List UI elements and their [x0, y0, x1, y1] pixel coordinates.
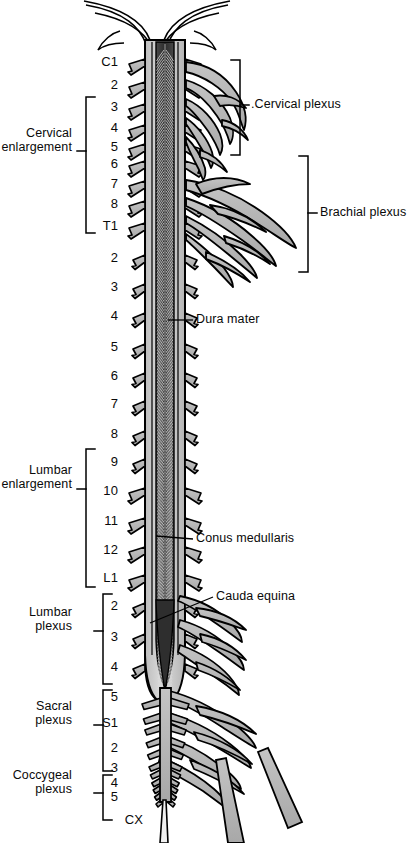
segment-label-11: 11	[78, 514, 118, 528]
bracket-label-coccygeal-plexus: Coccygealplexus	[0, 769, 72, 796]
bracket-label-line2: plexus	[0, 714, 72, 728]
filum-terminale	[160, 800, 168, 843]
segment-label-s1: S1	[78, 716, 118, 730]
segment-label-4: 4	[78, 309, 118, 323]
segment-label-8: 8	[78, 197, 118, 211]
bracket-label-line2: plexus	[0, 620, 72, 634]
segment-label-l1: L1	[78, 571, 118, 585]
segment-label-2: 2	[78, 741, 118, 755]
segment-label-2: 2	[78, 251, 118, 265]
segment-label-4: 4	[78, 776, 118, 790]
bracket-label-line1: Lumbar	[0, 464, 72, 478]
figure-canvas: C12345678T123456789101112L12345S12345CX …	[0, 0, 414, 843]
segment-label-3: 3	[78, 280, 118, 294]
bracket-label-line2: enlargement	[0, 478, 72, 492]
segment-label-3: 3	[78, 761, 118, 775]
segment-label-8: 8	[78, 427, 118, 441]
segment-label-5: 5	[78, 790, 118, 804]
bracket-label-lumbar-enlargement: Lumbarenlargement	[0, 464, 72, 491]
bracket-label-lumbar-plexus: Lumbarplexus	[0, 606, 72, 633]
bracket-label-line1: Cervical	[0, 127, 72, 141]
bracket-label-cervical-enlargement: Cervicalenlargement	[0, 127, 72, 154]
leader-label-cauda-equina: Cauda equina	[216, 590, 295, 604]
segment-label-3: 3	[78, 100, 118, 114]
segment-label-7: 7	[78, 177, 118, 191]
segment-label-t1: T1	[78, 219, 118, 233]
segment-label-6: 6	[78, 369, 118, 383]
cervical-plexus-nerves	[186, 62, 248, 180]
leader-label-dura-mater: Dura mater	[196, 313, 260, 327]
segment-label-5: 5	[78, 340, 118, 354]
segment-label-12: 12	[78, 543, 118, 557]
leader-label-conus-medullaris: Conus medullaris	[196, 532, 294, 546]
bracket-label-line1: Lumbar	[0, 606, 72, 620]
bracket-label-line2: enlargement	[0, 141, 72, 155]
segment-label-5: 5	[78, 690, 118, 704]
bracket-label-line1: Coccygeal	[0, 769, 72, 783]
segment-label-5: 5	[78, 140, 118, 154]
segment-label-9: 9	[78, 455, 118, 469]
left-spinal-roots	[128, 59, 145, 679]
bracket-label-brachial-plexus: Brachial plexus	[320, 206, 406, 220]
bracket-label-cervical-plexus: .Cervical plexus	[251, 98, 341, 112]
segment-label-3: 3	[78, 630, 118, 644]
segment-label-cx: CX	[103, 813, 143, 827]
segment-label-2: 2	[78, 78, 118, 92]
segment-label-10: 10	[78, 484, 118, 498]
segment-label-7: 7	[78, 397, 118, 411]
bracket-label-line1: Sacral	[0, 700, 72, 714]
brachial-plexus-nerves	[186, 178, 296, 287]
descending-nerve-trunks	[216, 748, 302, 843]
segment-label-6: 6	[78, 157, 118, 171]
bracket-label-sacral-plexus: Sacralplexus	[0, 700, 72, 727]
sacral-rootlets	[142, 688, 189, 807]
segment-label-2: 2	[78, 599, 118, 613]
segment-label-4: 4	[78, 121, 118, 135]
segment-label-c1: C1	[78, 55, 118, 69]
bracket-label-line2: plexus	[0, 783, 72, 797]
segment-label-4: 4	[78, 660, 118, 674]
